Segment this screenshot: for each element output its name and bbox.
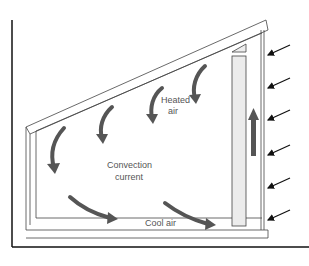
heated-air-label-line1: Heated: [161, 95, 190, 105]
heated-air-label-line2: air: [168, 106, 178, 116]
convection-diagram: Heated air Convection current Cool air: [0, 0, 309, 266]
convection-label-line1: Convection: [107, 160, 152, 170]
flow-arrow-4: [52, 128, 64, 168]
incoming-radiation-arrows: [268, 45, 290, 220]
flow-arrow-1: [194, 66, 205, 98]
convection-label-line2: current: [115, 172, 144, 182]
convection-flow-arrows: [47, 66, 216, 230]
upward-arrow-icon: [248, 108, 259, 156]
cool-air-label: Cool air: [145, 218, 176, 228]
flow-arrow-3: [101, 107, 112, 138]
thermal-wall: [232, 44, 246, 226]
flow-arrow-5: [70, 197, 110, 218]
